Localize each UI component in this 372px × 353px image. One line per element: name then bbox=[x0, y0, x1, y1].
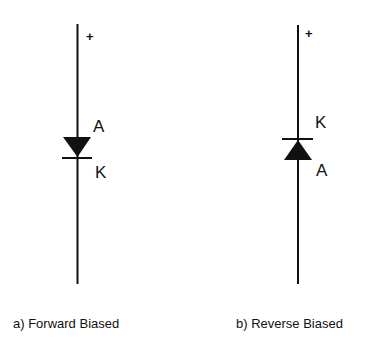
reverse-diode-triangle-icon bbox=[284, 140, 312, 160]
forward-top-terminal-label: A bbox=[93, 118, 104, 135]
forward-plus-label: + bbox=[86, 30, 94, 43]
reverse-bottom-terminal-label: A bbox=[316, 162, 327, 179]
forward-biased-circuit bbox=[62, 24, 92, 284]
forward-caption: a) Forward Biased bbox=[13, 317, 119, 330]
reverse-caption: b) Reverse Biased bbox=[236, 317, 343, 330]
reverse-top-terminal-label: K bbox=[315, 114, 326, 131]
forward-diode-triangle-icon bbox=[63, 137, 91, 157]
reverse-biased-circuit bbox=[282, 25, 313, 284]
reverse-plus-label: + bbox=[305, 27, 313, 40]
forward-bottom-terminal-label: K bbox=[95, 164, 106, 181]
